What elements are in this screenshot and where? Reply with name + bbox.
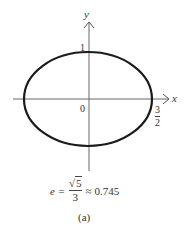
x-intercept-label: 3 2 xyxy=(155,105,160,128)
equation-radicand: 5 xyxy=(75,176,82,189)
origin-label: 0 xyxy=(80,104,85,114)
equation-denominator: 3 xyxy=(73,192,79,203)
equation-approx: ≈ 0.745 xyxy=(86,185,120,197)
equation-numerator: √5 xyxy=(69,178,82,189)
x-axis-label: x xyxy=(172,93,177,104)
equation-fraction: √5 3 xyxy=(69,178,82,203)
figure-caption: (a) xyxy=(78,212,90,223)
eccentricity-equation: e = √5 3 ≈ 0.745 xyxy=(50,178,119,203)
y-intercept-label: 1 xyxy=(80,43,85,53)
y-axis-label: y xyxy=(84,9,89,20)
x-intercept-numerator: 3 xyxy=(155,105,160,115)
x-intercept-denominator: 2 xyxy=(155,118,160,128)
equation-lhs: e = xyxy=(50,185,65,197)
